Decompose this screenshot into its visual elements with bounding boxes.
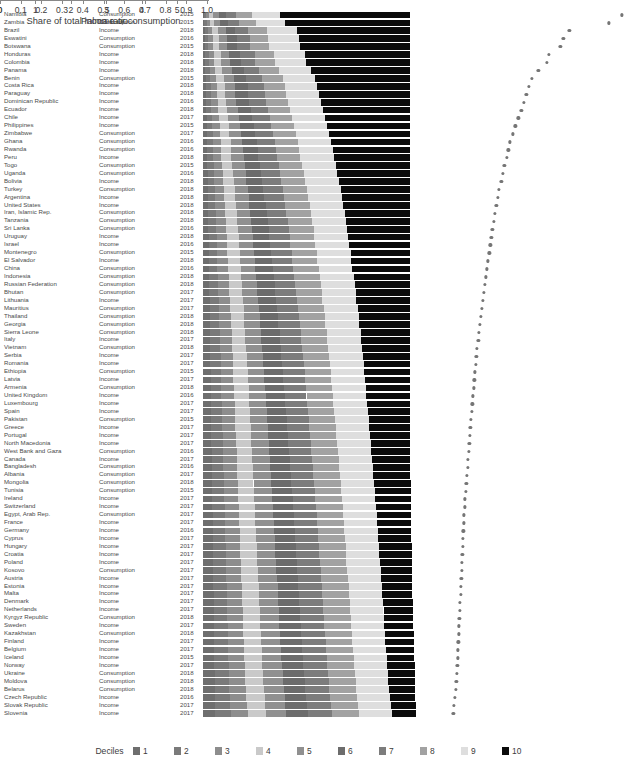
bar-segment-decile-10 — [371, 440, 411, 447]
table-row: ThailandConsumption2018 — [0, 313, 638, 321]
bar-segment-decile-9 — [324, 305, 358, 312]
row-year: 2018 — [180, 216, 204, 224]
bar-segment-decile-9 — [337, 440, 371, 447]
row-year: 2016 — [180, 264, 204, 272]
bar-segment-decile-7 — [228, 20, 239, 27]
bar-segment-decile-10 — [378, 528, 412, 535]
bar-segment-decile-6 — [286, 710, 308, 717]
stacked-bar — [203, 559, 410, 566]
bar-segment-decile-8 — [309, 416, 335, 423]
bar-segment-decile-8 — [319, 551, 346, 558]
bar-segment-decile-1 — [203, 647, 214, 654]
bar-segment-decile-8 — [315, 496, 341, 503]
legend-item-decile-6[interactable]: 6 — [338, 746, 379, 756]
legend-item-decile-1[interactable]: 1 — [133, 746, 174, 756]
palma-dot-cell — [423, 638, 632, 646]
table-row: RwandaConsumption2016 — [0, 146, 638, 154]
bar-segment-decile-9 — [310, 202, 344, 209]
bar-segment-decile-4 — [217, 83, 225, 90]
bar-segment-decile-5 — [260, 607, 279, 614]
bar-segment-decile-9 — [327, 337, 361, 344]
stacked-bar — [203, 353, 410, 360]
bar-segment-decile-9 — [304, 170, 338, 177]
bar-segment-decile-7 — [297, 559, 320, 566]
stacked-bar — [203, 623, 410, 630]
bar-segment-decile-7 — [248, 83, 264, 90]
table-row: United StatesIncome2018 — [0, 202, 638, 210]
legend-item-decile-5[interactable]: 5 — [297, 746, 338, 756]
bar-segment-decile-5 — [243, 297, 258, 304]
row-year: 2018 — [180, 58, 204, 66]
row-welfare-type: Income — [99, 81, 169, 89]
bar-segment-decile-8 — [319, 543, 346, 550]
bar-segment-decile-1 — [203, 575, 213, 582]
legend-item-decile-4[interactable]: 4 — [256, 746, 297, 756]
bar-segment-decile-7 — [287, 416, 309, 423]
palma-dot-cell — [423, 75, 632, 83]
legend-item-decile-3[interactable]: 3 — [215, 746, 256, 756]
legend-item-decile-2[interactable]: 2 — [174, 746, 215, 756]
share-axis-tick-label: 0.8 — [160, 5, 172, 15]
bar-segment-decile-3 — [222, 408, 235, 415]
table-row: IsraelIncome2016 — [0, 241, 638, 249]
bar-segment-decile-9 — [268, 35, 298, 42]
bar-segment-decile-8 — [326, 647, 353, 654]
bar-segment-decile-8 — [329, 678, 356, 685]
bar-segment-decile-5 — [260, 623, 279, 630]
palma-dot — [479, 315, 482, 318]
palma-dot-cell — [423, 146, 632, 154]
bar-segment-decile-6 — [261, 329, 279, 336]
row-welfare-type: Income — [99, 550, 169, 558]
bar-segment-decile-8 — [259, 67, 279, 74]
legend-item-decile-7[interactable]: 7 — [379, 746, 420, 756]
bar-segment-decile-5 — [221, 51, 229, 58]
bar-segment-decile-3 — [227, 599, 242, 606]
table-row: CyprusIncome2017 — [0, 535, 638, 543]
bar-segment-decile-2 — [210, 329, 220, 336]
legend-item-decile-10[interactable]: 10 — [502, 746, 543, 756]
bar-segment-decile-4 — [239, 520, 255, 527]
stacked-bar — [203, 115, 410, 122]
bar-segment-decile-2 — [210, 353, 220, 360]
row-year: 2018 — [180, 320, 204, 328]
bar-segment-decile-5 — [254, 488, 272, 495]
bar-segment-decile-6 — [226, 27, 236, 34]
bar-segment-decile-3 — [226, 543, 240, 550]
palma-dot — [505, 156, 508, 159]
table-row: TunisiaConsumption2015 — [0, 487, 638, 495]
bar-segment-decile-4 — [237, 472, 253, 479]
stacked-bar — [203, 20, 410, 27]
bar-segment-decile-3 — [223, 464, 237, 471]
bar-segment-decile-3 — [224, 496, 238, 503]
row-year: 2017 — [180, 605, 204, 613]
bar-segment-decile-10 — [383, 599, 413, 606]
bar-segment-decile-9 — [331, 377, 365, 384]
bar-segment-decile-6 — [258, 297, 276, 304]
bar-segment-decile-6 — [281, 647, 302, 654]
bar-segment-decile-5 — [246, 345, 262, 352]
legend-item-decile-8[interactable]: 8 — [420, 746, 461, 756]
bar-segment-decile-2 — [211, 369, 221, 376]
bar-segment-decile-4 — [248, 710, 266, 717]
bar-segment-decile-8 — [266, 99, 288, 106]
palma-dot-cell — [423, 590, 632, 598]
row-welfare-type: Consumption — [99, 185, 169, 193]
bar-segment-decile-9 — [339, 456, 373, 463]
table-row: El SalvadorIncome2018 — [0, 257, 638, 265]
bar-segment-decile-10 — [373, 472, 410, 479]
bar-segment-decile-10 — [347, 226, 410, 233]
stacked-bar — [203, 131, 410, 138]
palma-axis-tick-label: 4 — [139, 5, 144, 15]
bar-segment-decile-1 — [203, 591, 214, 598]
bar-segment-decile-5 — [257, 551, 275, 558]
row-welfare-type: Consumption — [99, 685, 169, 693]
bar-segment-decile-3 — [227, 583, 242, 590]
bar-segment-decile-2 — [208, 194, 215, 201]
legend-item-decile-9[interactable]: 9 — [461, 746, 502, 756]
stacked-bar — [203, 226, 410, 233]
bar-segment-decile-9 — [347, 567, 380, 574]
palma-dot-cell — [423, 368, 632, 376]
bar-segment-decile-9 — [267, 27, 297, 34]
row-country-label: Finland — [4, 637, 90, 645]
row-welfare-type: Income — [99, 597, 169, 605]
